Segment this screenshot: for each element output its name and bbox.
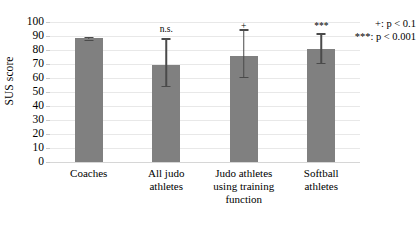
x-axis-category-label: Softballathletes [283, 167, 361, 193]
error-bar-cap-upper [162, 38, 171, 40]
significance-annotation: *** [314, 22, 328, 32]
x-axis-category-label-line: Coaches [50, 167, 128, 180]
axis-baseline [50, 162, 360, 163]
x-axis-category-label-line: Judo athletes [205, 167, 283, 180]
x-axis-category-label-line: function [205, 193, 283, 206]
bar [75, 38, 103, 162]
error-bar [321, 33, 323, 62]
y-axis-tick-label: 60 [18, 72, 44, 84]
y-axis-tick-label: 40 [18, 100, 44, 112]
y-axis-tick-label: 0 [18, 156, 44, 168]
x-axis-category-label-line: All judo [128, 167, 206, 180]
bar-chart: SUS score 1009080706050403020100 n.s.+**… [0, 0, 418, 226]
significance-annotation: + [241, 22, 246, 32]
x-axis-category-label: All judoathletes [128, 167, 206, 193]
error-bar-cap-upper [84, 37, 93, 39]
bar-group: n.s. [128, 22, 206, 162]
legend-line: +: p < 0.1 [332, 17, 416, 30]
y-axis-title-text: SUS score [3, 56, 15, 105]
plot-area: n.s.+*** [50, 22, 360, 162]
x-axis-category-labels: CoachesAll judoathletesJudo athletesusin… [50, 167, 360, 223]
error-bar [166, 38, 168, 86]
y-axis-tick-label: 20 [18, 128, 44, 140]
x-axis-category-label-line: using training [205, 180, 283, 193]
x-axis-category-label-line: athletes [128, 180, 206, 193]
bar [307, 49, 335, 162]
y-axis-tick-labels: 1009080706050403020100 [16, 0, 44, 226]
significance-legend: +: p < 0.1***: p < 0.001 [332, 17, 416, 43]
error-bar-cap-lower [162, 86, 171, 88]
y-axis-tick-label: 80 [18, 44, 44, 56]
x-axis-category-label: Judo athletesusing trainingfunction [205, 167, 283, 206]
error-bar [243, 29, 245, 77]
error-bar-cap-upper [317, 33, 326, 35]
x-axis-category-label-line: Softball [283, 167, 361, 180]
x-axis-category-label: Coaches [50, 167, 128, 180]
legend-line: ***: p < 0.001 [332, 30, 416, 43]
x-axis-category-label-line: athletes [283, 180, 361, 193]
y-axis-tick-label: 30 [18, 114, 44, 126]
y-axis-tick-label: 100 [18, 16, 44, 28]
significance-annotation: n.s. [160, 25, 173, 35]
y-axis-tick-label: 90 [18, 30, 44, 42]
y-axis-tick-label: 10 [18, 142, 44, 154]
bar-group [50, 22, 128, 162]
y-axis-tick-label: 50 [18, 86, 44, 98]
error-bar-cap-lower [317, 63, 326, 65]
y-axis-tick-mark [46, 162, 50, 163]
y-axis-tick-label: 70 [18, 58, 44, 70]
error-bar-cap-lower [84, 40, 93, 42]
bar-group: + [205, 22, 283, 162]
bar-group: *** [283, 22, 361, 162]
error-bar-cap-lower [239, 77, 248, 79]
